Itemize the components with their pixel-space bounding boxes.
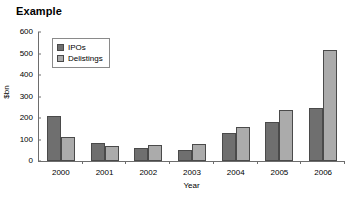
x-axis-title: Year [38,181,345,190]
y-tick-label: 0 [29,157,33,165]
bar-delistings-2000 [61,137,75,161]
y-tick-label: 200 [20,114,33,122]
x-tick-label: 2002 [139,168,157,177]
legend-label: Delistings [68,54,103,63]
x-tick-mark [213,161,214,164]
x-tick-label: 2005 [271,168,289,177]
legend-swatch-icon [57,44,64,51]
bar-ipos-2006 [309,108,323,161]
y-tick-label: 100 [20,136,33,144]
bar-delistings-2005 [279,110,293,161]
x-tick-mark [300,161,301,164]
legend-item-delistings: Delistings [57,53,103,64]
x-tick-mark [125,161,126,164]
legend-item-ipos: IPOs [57,42,103,53]
x-tick-mark [82,161,83,164]
bar-delistings-2001 [105,146,119,161]
bar-delistings-2002 [148,145,162,161]
y-tick-label: 500 [20,50,33,58]
x-tick-label: 2004 [227,168,245,177]
bar-ipos-2004 [222,133,236,161]
bar-delistings-2006 [323,50,337,161]
legend-swatch-icon [57,55,64,62]
bar-ipos-2001 [91,143,105,161]
x-tick-label: 2000 [52,168,70,177]
x-tick-label: 2003 [183,168,201,177]
y-tick-label: 600 [20,28,33,36]
chart-figure: Example $bn 0100200300400500600 20002001… [0,0,349,207]
x-tick-mark [257,161,258,164]
x-tick-mark [169,161,170,164]
legend: IPOsDelistings [52,38,110,68]
bar-ipos-2002 [134,148,148,161]
x-tick-label: 2006 [314,168,332,177]
bar-ipos-2003 [178,150,192,161]
x-tick-label: 2001 [96,168,114,177]
chart-title: Example [16,4,62,18]
bar-ipos-2000 [47,116,61,161]
x-tick-mark [344,161,345,164]
legend-label: IPOs [68,43,86,52]
bar-delistings-2004 [236,127,250,161]
y-tick-label: 300 [20,93,33,101]
bar-ipos-2005 [265,122,279,161]
bar-delistings-2003 [192,144,206,161]
y-axis: 0100200300400500600 [0,32,38,161]
y-tick-label: 400 [20,71,33,79]
